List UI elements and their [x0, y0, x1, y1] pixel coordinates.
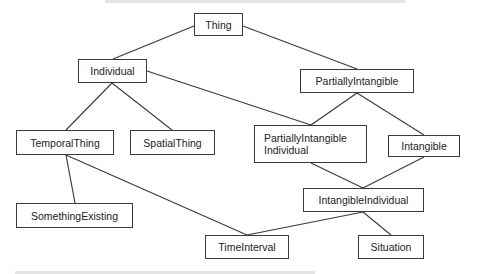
- node-partially-intangible-individual: PartiallyIntangible Individual: [254, 125, 367, 163]
- node-label: TemporalThing: [30, 137, 99, 149]
- node-label: Situation: [371, 241, 412, 253]
- node-label: IntangibleIndividual: [319, 194, 409, 206]
- node-label: Intangible: [401, 140, 447, 152]
- edge-partially-intangible-individual-to-intangible-individual: [311, 163, 363, 188]
- node-label: PartiallyIntangible: [316, 75, 399, 87]
- edge-individual-to-partially-intangible-individual: [147, 71, 311, 125]
- ontology-diagram: Thing Individual PartiallyIntangible Tem…: [0, 0, 477, 274]
- node-label: TimeInterval: [218, 241, 275, 253]
- edge-partially-intangible-to-partially-intangible-individual: [311, 93, 357, 125]
- edge-individual-to-temporal-thing: [66, 83, 112, 130]
- node-label: Individual: [90, 65, 134, 77]
- node-temporal-thing: TemporalThing: [16, 130, 114, 155]
- node-individual: Individual: [78, 59, 147, 83]
- node-time-interval: TimeInterval: [205, 235, 289, 259]
- edge-individual-to-spatial-thing: [112, 83, 172, 130]
- edge-partially-intangible-to-intangible: [357, 93, 424, 135]
- node-label: Thing: [205, 19, 231, 31]
- cropped-caption-top: [105, 0, 405, 3]
- node-intangible: Intangible: [388, 135, 460, 157]
- node-partially-intangible: PartiallyIntangible: [300, 69, 414, 93]
- node-thing: Thing: [194, 13, 243, 36]
- edge-intangible-to-intangible-individual: [363, 157, 424, 188]
- edge-temporal-thing-to-something-existing: [66, 155, 75, 203]
- node-label: SpatialThing: [143, 137, 201, 149]
- edge-thing-to-individual: [113, 26, 194, 59]
- edge-intangible-individual-to-situation: [363, 212, 391, 235]
- node-label: SomethingExisting: [31, 210, 118, 222]
- node-label-line-2: Individual: [264, 144, 347, 156]
- edge-thing-to-partially-intangible: [243, 26, 357, 69]
- node-something-existing: SomethingExisting: [16, 203, 133, 228]
- node-intangible-individual: IntangibleIndividual: [303, 188, 424, 212]
- node-spatial-thing: SpatialThing: [130, 130, 215, 155]
- edge-intangible-individual-to-time-interval: [247, 212, 363, 235]
- node-label-line-1: PartiallyIntangible: [264, 132, 347, 144]
- node-situation: Situation: [358, 235, 424, 259]
